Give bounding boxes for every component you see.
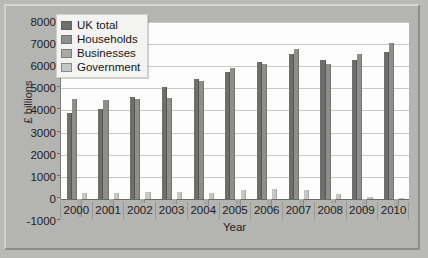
bar-households-2005 (230, 68, 235, 198)
bar-government-2002 (145, 192, 150, 198)
bar-households-2008 (326, 64, 331, 199)
legend-swatch-icon (61, 63, 72, 72)
bar-households-2000 (72, 99, 77, 199)
x-tick-2003: 2003 (155, 202, 187, 220)
bar-group-2006 (251, 22, 283, 221)
y-tick-2000: 2000 (18, 150, 56, 160)
legend-item-uk-total: UK total (61, 18, 140, 32)
bar-chart: £ billions 80007000600050004000300020001… (0, 0, 428, 258)
x-tick-2004: 2004 (187, 202, 219, 220)
x-tick-2010: 2010 (377, 202, 409, 220)
y-tick-neg1000: -1000 (18, 216, 56, 226)
legend-label: Businesses (77, 47, 136, 59)
x-tick-2008: 2008 (314, 202, 346, 220)
bar-group-2003 (156, 22, 188, 221)
bar-group-2010 (378, 22, 410, 221)
legend-label: Households (77, 33, 138, 45)
bar-government-2003 (177, 192, 182, 198)
x-axis-tick-labels: 2000200120022003200420052006200720082009… (60, 199, 409, 223)
bar-households-2004 (199, 81, 204, 199)
bar-households-2007 (294, 49, 299, 199)
x-tick-2001: 2001 (92, 202, 124, 220)
legend-item-households: Households (61, 32, 140, 46)
legend-swatch-icon (61, 21, 72, 30)
y-tick-4000: 4000 (18, 105, 56, 115)
legend-label: UK total (77, 19, 118, 31)
bar-government-2007 (304, 190, 309, 199)
bar-group-2009 (347, 22, 379, 221)
bar-government-2005 (241, 190, 246, 199)
bar-group-2007 (283, 22, 315, 221)
y-tick-8000: 8000 (18, 17, 56, 27)
x-tick-2006: 2006 (250, 202, 282, 220)
bar-government-2004 (209, 193, 214, 199)
legend-swatch-icon (61, 49, 72, 58)
x-axis-title: Year (60, 221, 409, 233)
bar-government-2000 (82, 193, 87, 199)
x-tick-2002: 2002 (123, 202, 155, 220)
bar-group-2005 (220, 22, 252, 221)
y-tick-3000: 3000 (18, 128, 56, 138)
bar-government-2006 (272, 189, 277, 199)
bar-households-2001 (103, 100, 108, 198)
chart-legend: UK totalHouseholdsBusinessesGovernment (56, 14, 148, 78)
legend-item-businesses: Businesses (61, 46, 140, 60)
bar-households-2006 (262, 64, 267, 199)
bar-households-2003 (167, 98, 172, 199)
y-tick-1000: 1000 (18, 172, 56, 182)
legend-swatch-icon (61, 35, 72, 44)
y-tick-5000: 5000 (18, 83, 56, 93)
x-tick-2000: 2000 (60, 202, 92, 220)
bar-government-2001 (114, 193, 119, 199)
bar-households-2009 (357, 54, 362, 199)
legend-label: Government (77, 61, 140, 73)
x-tick-2009: 2009 (346, 202, 378, 220)
y-tick-0: 0 (18, 194, 56, 204)
y-tick-6000: 6000 (18, 61, 56, 71)
bar-group-2004 (188, 22, 220, 221)
y-tick-7000: 7000 (18, 39, 56, 49)
x-tick-2005: 2005 (219, 202, 251, 220)
legend-item-government: Government (61, 60, 140, 74)
y-axis-tick-labels: 800070006000500040003000200010000-1000 (18, 0, 56, 258)
x-tick-2007: 2007 (282, 202, 314, 220)
bar-households-2002 (135, 99, 140, 199)
bar-group-2008 (315, 22, 347, 221)
bar-households-2010 (389, 43, 394, 199)
